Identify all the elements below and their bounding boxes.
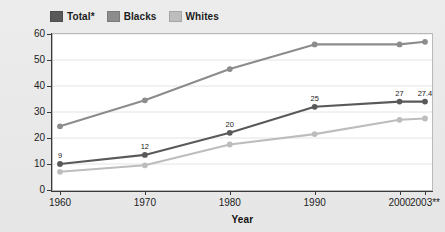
chart-legend: Total* Blacks Whites bbox=[50, 9, 219, 23]
series-line-blacks bbox=[60, 42, 425, 127]
chart-figure: Total* Blacks Whites Percent 01020304050… bbox=[0, 0, 445, 232]
legend-swatch-blacks bbox=[107, 11, 120, 22]
y-tick-label: 40 bbox=[21, 81, 45, 91]
y-tick-label: 30 bbox=[21, 107, 45, 117]
data-point[interactable] bbox=[142, 162, 148, 168]
legend-item-whites[interactable]: Whites bbox=[169, 11, 219, 22]
y-tick-label: 20 bbox=[21, 133, 45, 143]
y-tick-label: 50 bbox=[21, 55, 45, 65]
y-tick-label: 0 bbox=[21, 185, 45, 195]
y-tick-label: 60 bbox=[21, 29, 45, 39]
legend-swatch-whites bbox=[169, 11, 182, 22]
data-label: 25 bbox=[310, 95, 318, 103]
data-point[interactable] bbox=[397, 117, 403, 123]
legend-swatch-total bbox=[50, 11, 63, 22]
data-point[interactable] bbox=[312, 42, 318, 48]
data-point[interactable] bbox=[142, 97, 148, 103]
series-line-total bbox=[60, 102, 425, 164]
x-tick-label: 1980 bbox=[200, 198, 260, 208]
plot-area bbox=[52, 33, 433, 191]
data-point[interactable] bbox=[312, 131, 318, 137]
data-point[interactable] bbox=[397, 99, 403, 105]
legend-label-blacks: Blacks bbox=[124, 11, 157, 22]
data-point[interactable] bbox=[57, 161, 63, 167]
data-point[interactable] bbox=[57, 169, 63, 175]
x-tick-label: 2003** bbox=[395, 198, 445, 208]
x-axis-title: Year bbox=[52, 214, 433, 225]
data-label: 9 bbox=[58, 152, 62, 160]
data-point[interactable] bbox=[227, 66, 233, 72]
data-label: 27.4 bbox=[418, 90, 433, 98]
legend-item-blacks[interactable]: Blacks bbox=[107, 11, 157, 22]
y-tick-label: 10 bbox=[21, 159, 45, 169]
legend-label-total: Total* bbox=[67, 11, 95, 22]
legend-label-whites: Whites bbox=[186, 11, 219, 22]
data-point[interactable] bbox=[142, 152, 148, 158]
data-point[interactable] bbox=[312, 104, 318, 110]
legend-item-total[interactable]: Total* bbox=[50, 11, 95, 22]
data-point[interactable] bbox=[397, 42, 403, 48]
data-point[interactable] bbox=[57, 123, 63, 129]
data-point[interactable] bbox=[422, 116, 428, 122]
data-point[interactable] bbox=[422, 99, 428, 105]
x-tick-label: 1970 bbox=[115, 198, 175, 208]
x-tick-label: 1960 bbox=[30, 198, 90, 208]
data-point[interactable] bbox=[227, 142, 233, 148]
x-tick-label: 1990 bbox=[285, 198, 345, 208]
data-point[interactable] bbox=[422, 39, 428, 45]
data-label: 27 bbox=[395, 90, 403, 98]
data-point[interactable] bbox=[227, 130, 233, 136]
plot-svg bbox=[53, 34, 432, 190]
data-label: 12 bbox=[141, 143, 149, 151]
data-label: 20 bbox=[226, 121, 234, 129]
